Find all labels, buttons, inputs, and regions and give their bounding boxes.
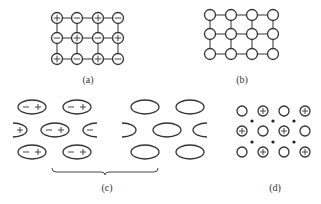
atom-icon (247, 49, 258, 60)
panel-a-caption: (a) (82, 74, 93, 86)
anion-icon (93, 33, 104, 44)
cation-icon (72, 33, 83, 44)
atom-icon (237, 147, 247, 157)
anion-icon (113, 54, 124, 65)
ion-core-icon (237, 126, 247, 136)
electron-icon (250, 119, 253, 122)
ion-core-icon (300, 147, 310, 157)
panel-b-caption: (b) (236, 74, 248, 86)
ion-core-icon (279, 126, 289, 136)
atom-icon (205, 10, 216, 21)
atom-icon (247, 29, 258, 40)
anion-icon (72, 13, 83, 24)
anion-icon (52, 33, 63, 44)
atom-icon (226, 10, 237, 21)
panel-d-caption: (d) (269, 182, 281, 194)
atom-icon (237, 106, 247, 116)
atom-icon (226, 49, 237, 60)
atom-icon (226, 29, 237, 40)
electron-icon (271, 140, 274, 143)
atom-icon (268, 49, 279, 60)
atom-icon (247, 10, 258, 21)
cation-icon (113, 33, 124, 44)
panel-c-caption: (c) (101, 182, 112, 194)
panel-c-nonpolar-molecules (122, 100, 207, 159)
electron-icon (250, 140, 253, 143)
ion-core-icon (258, 147, 268, 157)
atom-icon (268, 29, 279, 40)
atom-icon (205, 49, 216, 60)
electron-icon (292, 119, 295, 122)
cation-icon (93, 54, 104, 65)
ion-core-icon (300, 106, 310, 116)
panel-c-brace (52, 168, 158, 175)
ion-core-icon (258, 106, 268, 116)
atom-icon (279, 106, 289, 116)
electron-icon (292, 140, 295, 143)
anion-icon (72, 54, 83, 65)
atom-icon (279, 147, 289, 157)
anion-icon (113, 13, 124, 24)
atom-icon (300, 126, 310, 136)
cation-icon (52, 13, 63, 24)
electron-icon (271, 119, 274, 122)
cation-icon (52, 54, 63, 65)
panel-d-metal-lattice (237, 106, 310, 157)
panel-b-atomic-lattice (210, 15, 273, 54)
diagram-canvas: (a) (b) (c) ( (0, 0, 321, 204)
atom-icon (268, 10, 279, 21)
cation-icon (93, 13, 104, 24)
atom-icon (205, 29, 216, 40)
panel-c-polar-molecules (13, 100, 97, 159)
atom-icon (258, 126, 268, 136)
panel-a-ionic-lattice (57, 18, 118, 59)
